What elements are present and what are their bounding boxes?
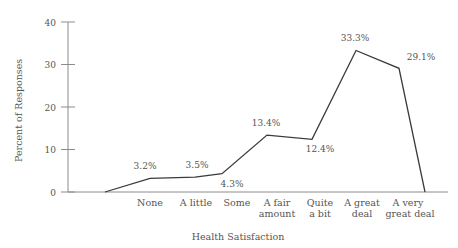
point-label-a-very-great-deal: 29.1%	[407, 52, 436, 62]
point-label-none: 3.2%	[134, 161, 157, 171]
x-category-label-a-great-deal-l1: A great	[343, 197, 380, 208]
point-label-a-fair-amount: 13.4%	[252, 118, 281, 128]
health-satisfaction-line-chart: 40 30 20 10 0 Percent of Responses 3.2% …	[0, 0, 458, 248]
chart-canvas: 40 30 20 10 0 Percent of Responses 3.2% …	[0, 0, 458, 248]
x-category-label-a-fair-amount-l1: A fair	[263, 197, 291, 208]
x-category-label-a-fair-amount-l2: amount	[259, 208, 296, 219]
x-category-label-a-great-deal-l2: deal	[352, 208, 372, 219]
x-category-label-none-l1: None	[137, 197, 163, 208]
y-tick-label-10: 10	[45, 145, 57, 155]
point-label-some: 4.3%	[221, 179, 244, 189]
y-tick-label-40: 40	[45, 18, 57, 28]
x-category-label-a-very-great-deal-l2: great deal	[385, 208, 434, 219]
x-category-label-quite-a-bit-l2: a bit	[309, 208, 331, 219]
y-tick-label-30: 30	[45, 60, 57, 70]
x-category-label-a-very-great-deal-l1: A very	[392, 197, 424, 208]
y-tick-label-0: 0	[50, 188, 56, 198]
point-label-quite-a-bit: 12.4%	[306, 144, 335, 154]
y-tick-label-20: 20	[45, 103, 57, 113]
y-axis-title: Percent of Responses	[13, 59, 24, 162]
x-category-label-a-little-l1: A little	[179, 197, 213, 208]
x-category-label-quite-a-bit-l1: Quite	[307, 197, 334, 208]
x-axis-title: Health Satisfaction	[192, 231, 285, 242]
x-category-label-some-l1: Some	[224, 197, 251, 208]
point-label-a-great-deal: 33.3%	[341, 33, 370, 43]
point-label-a-little: 3.5%	[186, 160, 209, 170]
